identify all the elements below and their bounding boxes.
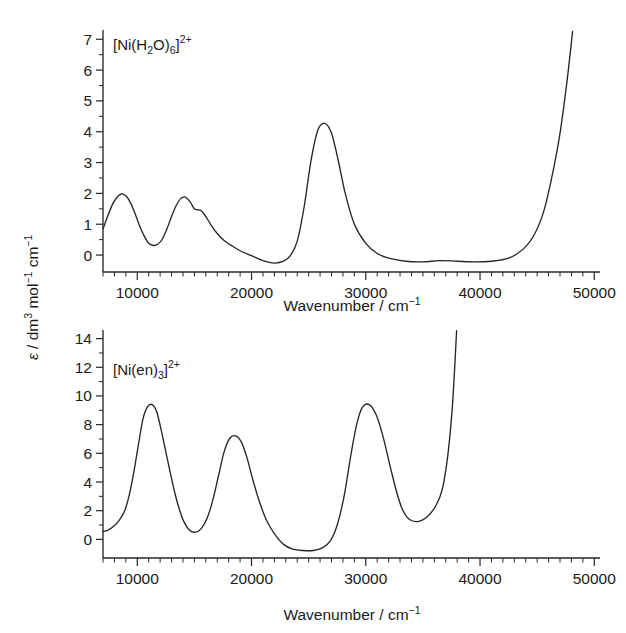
x-tick-label-40000: 40000: [458, 570, 501, 587]
top-spectrum-curve: [103, 32, 573, 264]
y-tick-label-2: 2: [83, 502, 92, 519]
bottom-y-axis-labels: 02468101214: [75, 330, 93, 548]
top-x-title-text: Wavenumber / cm: [283, 297, 408, 314]
bottom-series-annotation: [Ni(en)3]2+: [113, 358, 180, 381]
y-tick-label-4: 4: [83, 123, 92, 140]
x-tick-label-10000: 10000: [116, 570, 159, 587]
top-y-axis-labels: 01234567: [83, 31, 92, 264]
bottom-x-title-sup: −1: [409, 604, 421, 616]
bottom-x-title-text: Wavenumber / cm: [283, 606, 408, 623]
top-annot-prefix: [Ni(H: [113, 36, 147, 53]
bottom-x-axis-title: Wavenumber / cm−1: [283, 604, 420, 623]
y-tick-label-7: 7: [83, 31, 92, 48]
y-tick-label-0: 0: [83, 531, 92, 548]
y-tick-label-4: 4: [83, 474, 92, 491]
y-tick-label-6: 6: [83, 62, 92, 79]
y-tick-label-2: 2: [83, 185, 92, 202]
svg-text:ε / dm3 mol−1 cm−1: ε / dm3 mol−1 cm−1: [22, 235, 41, 360]
x-tick-label-50000: 50000: [573, 284, 616, 301]
y-tick-label-1: 1: [83, 216, 92, 233]
x-tick-label-20000: 20000: [230, 284, 273, 301]
panel-bottom-ni-en-3: 02468101214 1000020000300004000050000 [N…: [75, 330, 616, 623]
bottom-y-axis-ticks: [96, 339, 103, 540]
top-x-axis-title: Wavenumber / cm−1: [283, 295, 420, 314]
y-tick-label-14: 14: [75, 330, 93, 347]
y-tick-label-3: 3: [83, 154, 92, 171]
x-tick-label-20000: 20000: [230, 570, 273, 587]
bottom-x-axis-labels: 1000020000300004000050000: [116, 570, 616, 587]
y-tick-label-10: 10: [75, 387, 93, 404]
x-tick-label-50000: 50000: [573, 570, 616, 587]
bottom-annot-sup-charge: 2+: [168, 358, 180, 370]
y-axis-mol: mol: [24, 284, 41, 313]
x-tick-label-40000: 40000: [458, 284, 501, 301]
top-x-title-sup: −1: [409, 295, 421, 307]
top-x-axis-ticks: [103, 272, 594, 280]
y-tick-label-0: 0: [83, 247, 92, 264]
x-tick-label-30000: 30000: [344, 570, 387, 587]
y-tick-label-8: 8: [83, 416, 92, 433]
y-axis-cm: cm: [24, 247, 41, 272]
y-axis-title: ε / dm3 mol−1 cm−1: [22, 235, 41, 360]
y-axis-sup-minus1-a: −1: [22, 271, 34, 283]
y-axis-sup-minus1-b: −1: [22, 235, 34, 247]
top-y-axis-ticks: [96, 39, 103, 255]
panel-top-ni-h2o-6: 01234567 1000020000300004000050000 [Ni(H…: [83, 30, 616, 314]
y-tick-label-5: 5: [83, 92, 92, 109]
top-annot-mid: O): [153, 36, 170, 53]
top-annot-sup-charge: 2+: [180, 33, 192, 45]
y-tick-label-6: 6: [83, 445, 92, 462]
top-series-annotation: [Ni(H2O)6]2+: [113, 33, 192, 56]
y-axis-slash-dm: / dm: [24, 319, 41, 353]
bottom-x-axis-ticks: [103, 558, 594, 566]
bottom-annot-prefix: [Ni(en): [113, 361, 158, 378]
x-tick-label-10000: 10000: [116, 284, 159, 301]
figure-canvas: ε / dm3 mol−1 cm−1 01234567 100002000030…: [0, 0, 626, 633]
spectra-figure: ε / dm3 mol−1 cm−1 01234567 100002000030…: [0, 0, 626, 633]
y-tick-label-12: 12: [75, 359, 92, 376]
